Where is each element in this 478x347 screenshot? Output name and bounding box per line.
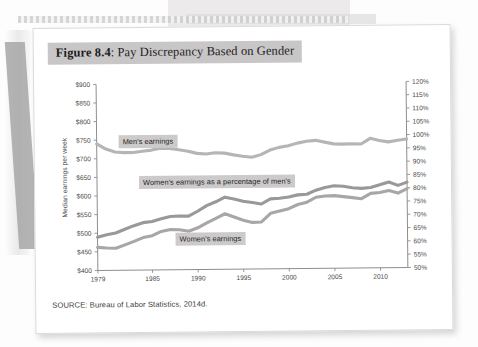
- svg-text:65%: 65%: [413, 224, 426, 231]
- svg-text:1995: 1995: [236, 274, 251, 281]
- svg-text:100%: 100%: [413, 131, 430, 138]
- svg-text:70%: 70%: [413, 210, 426, 217]
- svg-text:1979: 1979: [91, 275, 106, 282]
- svg-text:$400: $400: [77, 267, 92, 274]
- figure-card: Figure 8.4: Pay Discrepancy Based on Gen…: [33, 24, 454, 334]
- svg-text:$850: $850: [76, 99, 91, 106]
- svg-text:85%: 85%: [413, 171, 426, 178]
- svg-text:2010: 2010: [373, 273, 388, 280]
- svg-text:80%: 80%: [413, 184, 426, 191]
- series-label-mens-earnings: Men's earnings: [119, 135, 178, 148]
- svg-text:120%: 120%: [412, 78, 429, 85]
- series-label-percent-of-mens: Women's earnings as a percentage of men'…: [139, 175, 295, 189]
- perforated-edge-strip: [18, 16, 348, 23]
- svg-text:60%: 60%: [414, 237, 427, 244]
- svg-text:55%: 55%: [414, 250, 427, 257]
- svg-text:$700: $700: [76, 155, 91, 162]
- chart-plot-area: $900$850$800$750$700$650$600$550$500$450…: [34, 25, 453, 333]
- svg-text:95%: 95%: [413, 144, 426, 151]
- series-label-womens-earnings: Women's earnings: [176, 232, 246, 245]
- svg-text:2000: 2000: [282, 273, 297, 280]
- source-note: SOURCE: Bureau of Labor Statistics, 2014…: [52, 299, 207, 309]
- svg-text:105%: 105%: [412, 117, 429, 124]
- svg-text:50%: 50%: [414, 264, 427, 271]
- svg-text:75%: 75%: [413, 197, 426, 204]
- svg-text:115%: 115%: [412, 91, 429, 98]
- svg-text:1990: 1990: [191, 274, 206, 281]
- svg-text:2005: 2005: [328, 273, 343, 280]
- svg-text:$650: $650: [76, 174, 91, 181]
- svg-text:$750: $750: [76, 137, 91, 144]
- chart-series-group: [97, 138, 408, 248]
- svg-text:$450: $450: [77, 248, 92, 255]
- svg-text:$800: $800: [76, 118, 91, 125]
- series-line: [97, 182, 407, 237]
- svg-text:110%: 110%: [412, 104, 429, 111]
- series-line: [97, 189, 408, 249]
- svg-text:$600: $600: [76, 192, 91, 199]
- svg-text:Median earnings per week: Median earnings per week: [61, 137, 70, 217]
- svg-text:1985: 1985: [145, 275, 160, 282]
- svg-text:90%: 90%: [413, 157, 426, 164]
- svg-text:$550: $550: [77, 211, 92, 218]
- svg-text:$500: $500: [77, 230, 92, 237]
- svg-text:$900: $900: [75, 81, 90, 88]
